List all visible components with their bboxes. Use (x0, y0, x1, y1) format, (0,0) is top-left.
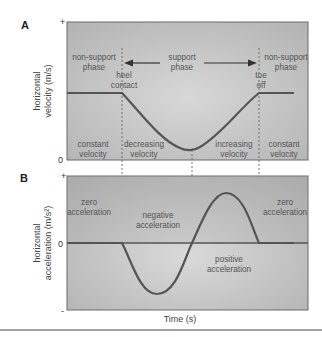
svg-text:negative: negative (143, 211, 174, 220)
panel-b-tick-minus: - (61, 306, 64, 316)
panel-a-ylabel: horizontal velocity (m/s) (32, 64, 53, 117)
svg-text:toe: toe (255, 71, 267, 80)
svg-text:non-support: non-support (72, 53, 116, 62)
panel-a-letter: A (21, 19, 29, 31)
svg-text:acceleration (m/s²): acceleration (m/s²) (43, 206, 53, 281)
panel-b-ylabel: horizontal acceleration (m/s²) (32, 206, 53, 281)
panel-b-tick-plus: + (61, 171, 66, 181)
svg-text:phase: phase (83, 63, 106, 72)
svg-text:zero: zero (81, 198, 97, 207)
svg-text:acceleration: acceleration (263, 208, 308, 217)
svg-text:constant: constant (269, 140, 301, 149)
svg-text:acceleration: acceleration (67, 208, 112, 217)
svg-text:decreasing: decreasing (124, 140, 165, 149)
svg-text:phase: phase (171, 63, 194, 72)
svg-text:increasing: increasing (215, 140, 253, 149)
panel-a-tick-zero: 0 (58, 155, 63, 165)
svg-text:velocity: velocity (79, 150, 107, 159)
svg-text:velocity: velocity (220, 150, 248, 159)
svg-text:horizontal: horizontal (32, 223, 42, 262)
svg-text:acceleration: acceleration (136, 221, 181, 230)
svg-text:non-support: non-support (264, 53, 308, 62)
svg-text:positive: positive (215, 255, 243, 264)
panel-b-letter: B (20, 172, 28, 184)
svg-text:constant: constant (78, 140, 110, 149)
svg-text:horizontal: horizontal (32, 71, 42, 110)
panel-a-tick-plus: + (60, 17, 65, 27)
svg-text:support: support (168, 53, 196, 62)
svg-text:phase: phase (275, 63, 298, 72)
svg-text:off: off (257, 81, 267, 90)
running-phase-diagram: A + 0 horizontal velocity (m/s) non-supp… (0, 0, 322, 337)
panel-b-acceleration: B + 0 - horizontal acceleration (m/s²) z… (20, 171, 308, 316)
svg-text:zero: zero (277, 198, 293, 207)
svg-text:velocity (m/s): velocity (m/s) (43, 64, 53, 117)
svg-text:heel: heel (116, 71, 132, 80)
svg-text:velocity: velocity (270, 150, 298, 159)
x-axis-label: Time (s) (164, 314, 197, 324)
svg-text:velocity: velocity (130, 150, 158, 159)
svg-text:acceleration: acceleration (207, 265, 252, 274)
svg-text:contact: contact (111, 81, 138, 90)
panel-b-tick-zero: 0 (58, 239, 63, 249)
